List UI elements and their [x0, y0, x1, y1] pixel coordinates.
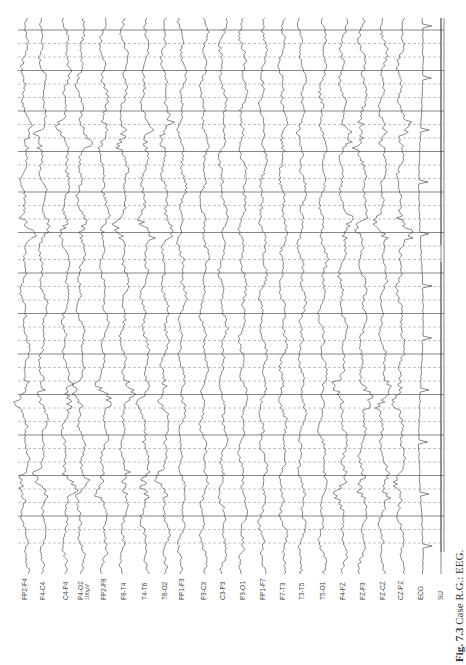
trace-f8-t4 — [112, 18, 136, 574]
scale-bar-label: 100μV — [84, 584, 90, 600]
trace-fp2-f4 — [13, 18, 36, 574]
channel-label: P4-O2 — [77, 581, 84, 600]
trace-c4-p4 — [55, 18, 78, 574]
trace-p4-o2 — [72, 18, 93, 574]
channel-label: FP1-F7 — [259, 578, 266, 600]
channel-label: P3-O1 — [239, 581, 246, 600]
eeg-traces — [0, 0, 466, 665]
channel-label: T5-O1 — [319, 582, 326, 600]
channel-label: C3-P3 — [219, 582, 226, 600]
eeg-figure: FP2-F4F4-C4C4-P4P4-O2FP2-F8F8-T4T4-T6T6-… — [0, 0, 466, 665]
trace-ecg — [419, 18, 433, 574]
trace-f7-t3 — [278, 18, 288, 574]
channel-label: SU — [437, 591, 444, 600]
channel-label: F4-FZ — [339, 582, 346, 600]
trace-p3-o1 — [238, 18, 248, 574]
channel-label: FP1-F3 — [178, 578, 185, 600]
trace-f4-fz — [332, 18, 353, 574]
channel-label: ECG — [417, 586, 424, 600]
trace-t4-t6 — [136, 18, 156, 574]
channel-label: F3-C3 — [200, 582, 207, 600]
channel-label: T4-T6 — [141, 583, 148, 600]
channel-label: FP2-F4 — [21, 578, 28, 600]
trace-fz-f3 — [352, 18, 373, 574]
channel-label: T3-T5 — [298, 583, 305, 600]
trace-t5-o1 — [318, 18, 329, 574]
trace-fp1-f3 — [177, 18, 188, 574]
channel-label: CZ-PZ — [397, 581, 404, 600]
channel-label: F7-T3 — [279, 583, 286, 600]
trace-fz-cz — [373, 18, 392, 574]
trace-fp2-f8 — [94, 18, 111, 574]
channel-label: FZ-F3 — [359, 582, 366, 600]
caption-text: Case R.G.: EEG. — [453, 550, 465, 628]
channel-label: FZ-CZ — [379, 581, 386, 600]
trace-fp1-f7 — [258, 18, 268, 574]
trace-f3-c3 — [199, 18, 210, 574]
trace-c3-p3 — [218, 18, 229, 574]
trace-cz-pz — [392, 18, 413, 574]
channel-label: C4-P4 — [62, 582, 69, 600]
channel-label: FP2-F8 — [100, 578, 107, 600]
trace-t6-o2 — [155, 18, 175, 574]
channel-label: T6-O2 — [161, 582, 168, 600]
channel-label: F4-C4 — [39, 582, 46, 600]
figure-caption: Fig. 7.3 Case R.G.: EEG. — [453, 550, 465, 662]
trace-t3-t5 — [297, 18, 308, 574]
channel-label: F8-T4 — [120, 583, 127, 600]
caption-label: Fig. 7.3 — [453, 627, 465, 662]
trace-f4-c4 — [33, 18, 51, 574]
